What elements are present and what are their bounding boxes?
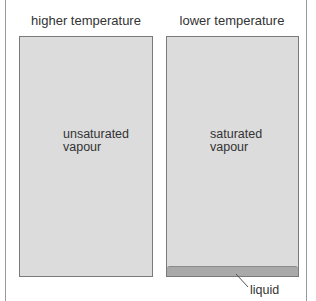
liquid-callout-line xyxy=(0,0,316,301)
liquid-label: liquid xyxy=(250,283,279,297)
